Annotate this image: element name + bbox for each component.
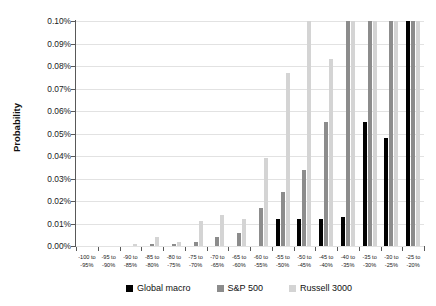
legend-label: Russell 3000 [300,283,352,293]
bar [199,221,203,246]
x-tick-label: -25 to-20% [393,253,433,269]
bar [411,21,415,246]
legend-swatch-icon [217,285,224,292]
bar [319,219,323,246]
y-tick-label: 0.09% [11,39,71,49]
y-tick-label: 0.01% [11,219,71,229]
x-tick-mark [185,247,186,251]
bar [389,21,393,246]
x-tick-mark [337,247,338,251]
bar-group [98,21,120,246]
bar [264,158,268,246]
bar [281,192,285,246]
y-tick-label: 0.00% [11,241,71,251]
y-tick-label: 0.05% [11,129,71,139]
legend-swatch-icon [126,285,133,292]
bar-group [76,21,98,246]
bar [324,122,328,246]
bar-group [337,21,359,246]
x-tick-mark [250,247,251,251]
bar-group [294,21,316,246]
bar-group [141,21,163,246]
bar-group [250,21,272,246]
bar-group [315,21,337,246]
bar-group [207,21,229,246]
bar [215,237,219,246]
bar [394,21,398,246]
bar [259,208,263,246]
x-tick-mark [359,247,360,251]
x-tick-mark [315,247,316,251]
bar [373,21,377,246]
bar [150,244,154,246]
x-tick-mark [141,247,142,251]
bar [276,219,280,246]
bar-group [228,21,250,246]
bar [172,244,176,246]
bar [368,21,372,246]
bar [416,21,420,246]
bar-group [272,21,294,246]
bar-group [402,21,424,246]
x-tick-mark [272,247,273,251]
bar [286,73,290,246]
bar [384,138,388,246]
bar [406,21,410,246]
bar [351,21,355,246]
x-tick-mark [424,247,425,251]
y-tick-label: 0.10% [11,16,71,26]
x-tick-mark [294,247,295,251]
bar [297,219,301,246]
bar [177,242,181,247]
y-tick-label: 0.08% [11,61,71,71]
bar [329,59,333,246]
x-tick-mark [207,247,208,251]
chart-legend: Global macroS&P 500Russell 3000 [126,283,352,293]
x-tick-mark [98,247,99,251]
bar [307,21,311,246]
bar-group [185,21,207,246]
bar-group [381,21,403,246]
bar [133,244,137,246]
legend-item-2[interactable]: Russell 3000 [289,283,352,293]
y-tick-label: 0.03% [11,174,71,184]
y-tick-label: 0.04% [11,151,71,161]
x-tick-mark [228,247,229,251]
y-tick-label: 0.06% [11,106,71,116]
legend-item-0[interactable]: Global macro [126,283,191,293]
plot-area [76,21,424,246]
bar [242,219,246,246]
bar [155,237,159,246]
y-tick-label: 0.02% [11,196,71,206]
legend-label: Global macro [137,283,191,293]
bar-group [359,21,381,246]
x-tick-mark [381,247,382,251]
x-tick-mark [402,247,403,251]
bar-group [163,21,185,246]
legend-swatch-icon [289,285,296,292]
bar [220,215,224,247]
legend-label: S&P 500 [228,283,263,293]
bar [346,21,350,246]
probability-distribution-bar-chart: Probability 0.00%0.01%0.02%0.03%0.04%0.0… [0,0,436,306]
bar-group [120,21,142,246]
bar [302,170,306,247]
bar [363,122,367,246]
x-tick-mark [163,247,164,251]
legend-item-1[interactable]: S&P 500 [217,283,263,293]
x-tick-mark [76,247,77,251]
x-tick-mark [120,247,121,251]
y-tick-label: 0.07% [11,84,71,94]
bar [341,217,345,246]
bar [194,242,198,247]
bar [237,233,241,247]
